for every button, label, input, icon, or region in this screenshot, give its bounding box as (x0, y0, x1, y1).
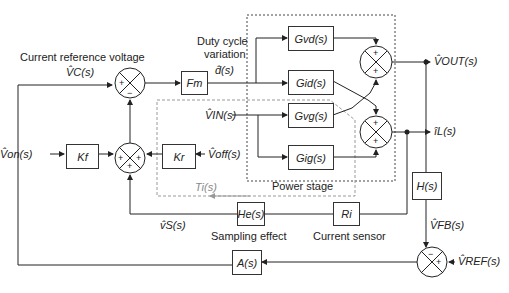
sum-vout-plus-top: + (373, 49, 378, 58)
sum-vout-plus-bottom: + (373, 67, 378, 76)
label-duty-cycle-line2: variation (204, 49, 246, 60)
signal-vin: V̂IN(s) (205, 110, 236, 121)
signal-vfb: V̂FB(s) (430, 220, 464, 231)
label-power-stage: Power stage (272, 181, 333, 192)
label-current-sensor: Current sensor (313, 231, 386, 242)
sum-ramp-plus-left: + (118, 154, 123, 163)
block-he: He(s) (237, 202, 265, 226)
signal-il: îL(s) (434, 126, 456, 137)
block-gid: Gid(s) (288, 70, 334, 95)
sum-il-plus-bottom: + (373, 137, 378, 146)
signal-vref: V̂REF(s) (458, 256, 500, 267)
sum-ramp-plus-right: + (136, 154, 141, 163)
signal-voff: V̂off(s) (208, 149, 240, 160)
sum-fb-minus: − (428, 250, 433, 259)
block-kr: Kr (162, 144, 196, 169)
sum-main-minus: − (127, 89, 132, 98)
sum-ramp-plus-bottom: + (127, 162, 132, 171)
label-current-reference-voltage: Current reference voltage (20, 52, 145, 63)
block-kf: Kf (66, 144, 99, 169)
block-h: H(s) (412, 172, 442, 200)
signal-von: V̂on(s) (0, 149, 32, 160)
signal-vc: V̂C(s) (66, 67, 94, 78)
signal-d: d̂(s) (215, 65, 234, 76)
block-gvg: Gvg(s) (288, 103, 334, 128)
signal-vout: V̂OUT(s) (434, 56, 477, 67)
block-ri: Ri (333, 202, 360, 226)
block-gig: Gig(s) (288, 145, 334, 170)
block-gvd: Gvd(s) (288, 26, 334, 51)
label-sampling-effect: Sampling effect (211, 231, 287, 242)
sum-il-plus-top: + (373, 119, 378, 128)
sum-fb-plus: + (436, 258, 441, 267)
signal-vs: v̂S(s) (160, 220, 186, 231)
block-fm: Fm (181, 71, 208, 95)
label-duty-cycle-line1: Duty cycle (197, 36, 248, 47)
block-a: A(s) (232, 250, 262, 275)
signal-ti: Ti(s) (195, 182, 217, 193)
sum-main-plus: + (119, 79, 124, 88)
